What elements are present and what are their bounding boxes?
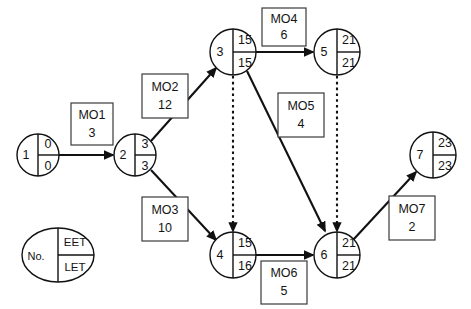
network-diagram: 1 0 0 2 3 3 3 15 15 4 15 bbox=[0, 0, 471, 309]
node-3-number: 3 bbox=[217, 45, 224, 59]
node-5-eet: 21 bbox=[342, 33, 356, 47]
node-4-number: 4 bbox=[217, 248, 224, 262]
activity-MO3-duration: 10 bbox=[158, 221, 172, 235]
activity-label-MO1[interactable]: MO1 3 bbox=[71, 103, 113, 145]
node-7-number: 7 bbox=[417, 148, 424, 162]
node-6-eet: 21 bbox=[342, 236, 356, 250]
activity-MO7-duration: 2 bbox=[409, 220, 416, 234]
node-7-let: 23 bbox=[438, 159, 452, 173]
node-5-let: 21 bbox=[342, 56, 356, 70]
node-7[interactable]: 7 23 23 bbox=[410, 132, 456, 178]
activity-label-MO6[interactable]: MO6 5 bbox=[261, 261, 307, 304]
node-1[interactable]: 1 0 0 bbox=[17, 134, 59, 176]
activity-MO2-duration: 12 bbox=[158, 98, 172, 112]
activity-MO1-name: MO1 bbox=[78, 108, 105, 122]
activity-MO6-duration: 5 bbox=[281, 284, 288, 298]
legend-key: No. EET LET bbox=[22, 228, 94, 282]
activity-MO5-name: MO5 bbox=[287, 99, 314, 113]
node-1-number: 1 bbox=[23, 148, 30, 162]
node-2-eet: 3 bbox=[142, 137, 149, 151]
node-6-let: 21 bbox=[342, 259, 356, 273]
activity-label-MO3[interactable]: MO3 10 bbox=[142, 197, 188, 241]
node-4-let: 16 bbox=[238, 259, 252, 273]
legend-eet-label: EET bbox=[64, 236, 86, 248]
activity-label-MO2[interactable]: MO2 12 bbox=[142, 74, 188, 118]
activity-label-MO5[interactable]: MO5 4 bbox=[278, 93, 324, 137]
activity-label-MO7[interactable]: MO7 2 bbox=[389, 196, 435, 240]
node-3-let: 15 bbox=[238, 56, 252, 70]
edges-layer bbox=[59, 52, 416, 255]
node-6[interactable]: 6 21 21 bbox=[314, 232, 360, 278]
node-3-eet: 15 bbox=[238, 33, 252, 47]
activity-MO6-name: MO6 bbox=[270, 266, 297, 280]
node-6-number: 6 bbox=[321, 248, 328, 262]
activity-MO5-duration: 4 bbox=[298, 117, 305, 131]
activity-MO3-name: MO3 bbox=[151, 203, 178, 217]
activity-MO1-duration: 3 bbox=[89, 126, 96, 140]
node-4-eet: 15 bbox=[238, 236, 252, 250]
node-3[interactable]: 3 15 15 bbox=[210, 29, 256, 75]
node-7-eet: 23 bbox=[438, 136, 452, 150]
node-1-eet: 0 bbox=[45, 137, 52, 151]
activity-MO2-name: MO2 bbox=[151, 80, 178, 94]
activity-MO7-name: MO7 bbox=[398, 202, 425, 216]
legend-number-label: No. bbox=[27, 250, 44, 262]
node-1-let: 0 bbox=[45, 159, 52, 173]
diagram-canvas: 1 0 0 2 3 3 3 15 15 4 15 bbox=[0, 0, 471, 309]
node-5[interactable]: 5 21 21 bbox=[314, 29, 360, 75]
node-4[interactable]: 4 15 16 bbox=[210, 232, 256, 278]
node-2-let: 3 bbox=[142, 159, 149, 173]
node-5-number: 5 bbox=[321, 45, 328, 59]
activity-MO4-duration: 6 bbox=[281, 28, 288, 42]
node-2[interactable]: 2 3 3 bbox=[114, 134, 156, 176]
activity-MO4-name: MO4 bbox=[270, 12, 297, 26]
node-2-number: 2 bbox=[120, 148, 127, 162]
activity-label-MO4[interactable]: MO4 6 bbox=[262, 8, 306, 46]
legend-let-label: LET bbox=[64, 261, 85, 273]
